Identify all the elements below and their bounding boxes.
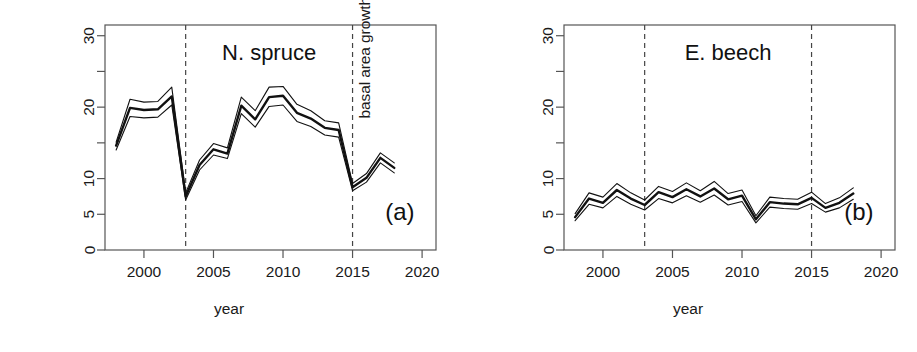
panel-b-e-beech: basal area growth (cm2/yr) 0510203020002… — [459, 0, 917, 352]
x-tick-label-0-2010: 2010 — [266, 263, 301, 280]
x-tick-label-0-2020: 2020 — [405, 263, 440, 280]
x-axis-label-b: year — [459, 300, 917, 318]
y-tick-label-1-30: 30 — [540, 27, 557, 45]
panel-title-1: E. beech — [685, 40, 772, 65]
x-tick-label-1-2000: 2000 — [586, 263, 621, 280]
panel-tag-0: (a) — [385, 198, 414, 225]
x-tick-label-0-2005: 2005 — [196, 263, 230, 280]
x-axis-label-a: year — [0, 300, 458, 318]
y-tick-label-0-10: 10 — [81, 170, 98, 188]
plot-area-a: 0510203020002005201020152020N. spruce(a) — [0, 0, 458, 300]
y-tick-label-0-30: 30 — [81, 27, 98, 45]
panel-a-n-spruce: basal area growth (cm2/yr) 0510203020002… — [0, 0, 458, 352]
plot-area-b: 0510203020002005201020152020E. beech(b) — [459, 0, 917, 300]
y-tick-label-1-20: 20 — [540, 98, 557, 116]
y-tick-label-0-0: 0 — [81, 245, 98, 254]
y-tick-label-1-10: 10 — [540, 170, 557, 188]
x-tick-label-1-2010: 2010 — [725, 263, 760, 280]
y-tick-label-0-5: 5 — [81, 210, 98, 219]
y-tick-label-1-0: 0 — [540, 245, 557, 254]
y-axis-label-b-prefix: basal area growth (cm — [356, 0, 373, 119]
y-axis-label-b: basal area growth (cm2/yr) — [351, 0, 379, 154]
x-tick-label-0-2000: 2000 — [127, 263, 162, 280]
x-tick-label-1-2005: 2005 — [655, 263, 689, 280]
figure-two-panel-growth: basal area growth (cm2/yr) 0510203020002… — [0, 0, 917, 352]
y-tick-label-0-20: 20 — [81, 98, 98, 116]
x-tick-label-0-2015: 2015 — [335, 263, 369, 280]
x-tick-label-1-2020: 2020 — [864, 263, 899, 280]
x-tick-label-1-2015: 2015 — [794, 263, 828, 280]
y-tick-label-1-5: 5 — [540, 210, 557, 219]
panel-title-0: N. spruce — [222, 40, 316, 65]
panel-tag-1: (b) — [844, 198, 873, 225]
